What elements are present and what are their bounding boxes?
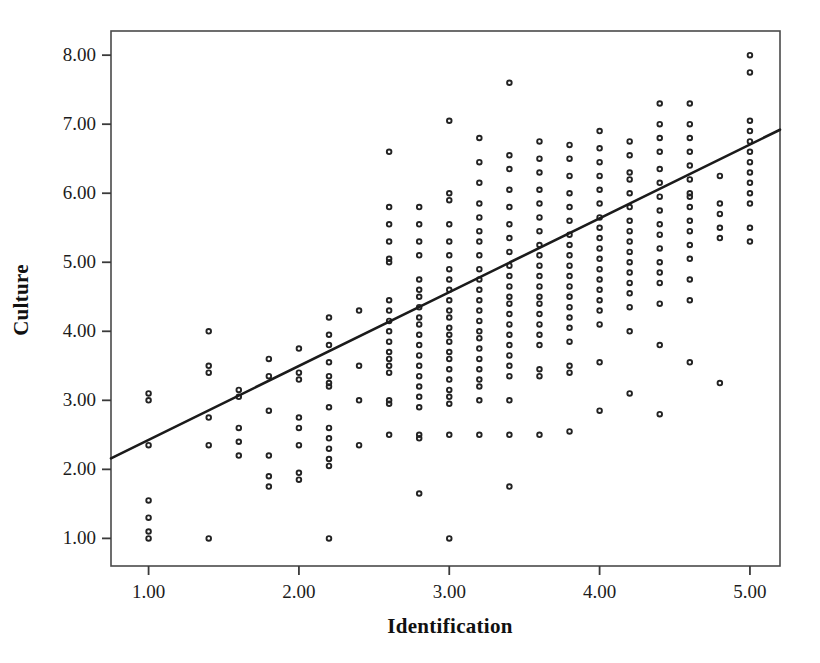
x-tick-label: 1.00 [132, 581, 165, 602]
x-axis-title: Identification [387, 614, 513, 638]
x-tick-label: 3.00 [433, 581, 466, 602]
y-axis-title: Culture [9, 264, 33, 336]
y-tick-label: 3.00 [63, 389, 96, 410]
x-tick-label: 5.00 [733, 581, 766, 602]
y-tick-label: 7.00 [63, 113, 96, 134]
scatter-plot-figure: 1.002.003.004.005.00 1.002.003.004.005.0… [0, 0, 820, 663]
y-tick-label: 2.00 [63, 458, 96, 479]
plot-canvas: 1.002.003.004.005.00 1.002.003.004.005.0… [0, 0, 820, 663]
x-tick-label: 2.00 [282, 581, 315, 602]
y-tick-label: 1.00 [63, 527, 96, 548]
y-tick-label: 6.00 [63, 182, 96, 203]
y-tick-label: 5.00 [63, 251, 96, 272]
figure-background [0, 0, 820, 663]
y-tick-label: 8.00 [63, 44, 96, 65]
y-tick-label: 4.00 [63, 320, 96, 341]
x-tick-label: 4.00 [583, 581, 616, 602]
